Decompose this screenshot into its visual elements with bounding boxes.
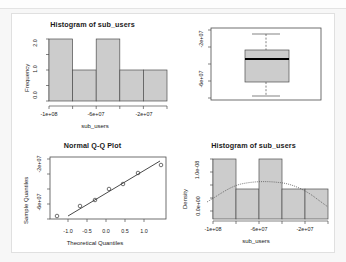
hist-density-xtick-1: -6e+07 <box>251 226 268 232</box>
hist-density-xtick-0: -1e+08 <box>205 226 222 232</box>
hist-frequency-xtick-1: -6e+07 <box>88 111 105 117</box>
boxplot-plot <box>207 26 321 102</box>
hist-frequency-ytick-0: 0.0 <box>32 91 38 99</box>
panel-histogram-density: Histogram of sub_users Density 1.0e-08 0… <box>173 133 334 252</box>
hist-density-xlabel: sub_users <box>181 238 331 244</box>
hist-frequency-ytick-1: 1.0 <box>32 65 38 73</box>
qq-xlabel: Theoretical Quantiles <box>20 240 170 246</box>
hist-density-ylabel: Density <box>182 189 188 209</box>
qq-ytick-0: -2e+07 <box>36 156 42 173</box>
hist-frequency-xtick-0: -1e+08 <box>41 111 58 117</box>
boxplot-ytick-0: -2e+07 <box>198 31 204 48</box>
qq-xtick-4: 1.0 <box>140 228 148 234</box>
hist-frequency-xtick-2: -2e+07 <box>136 111 153 117</box>
panel-boxplot: -2e+07 -6e+07 <box>173 14 334 133</box>
qq-xtick-3: 0.5 <box>121 228 129 234</box>
qq-ylabel: Sample Quantiles <box>23 177 29 224</box>
qq-xtick-2: 0.0 <box>102 228 110 234</box>
hist-density-xtick-2: -2e+07 <box>297 226 314 232</box>
panel-normal-qq: Normal Q-Q Plot Sample Quantiles -2e+07 … <box>12 133 173 252</box>
hist-density-plot <box>205 155 329 225</box>
panel-histogram-frequency: Histogram of sub_users Frequency 2.0 1.0… <box>12 14 173 133</box>
boxplot-ytick-1: -6e+07 <box>198 71 204 88</box>
hist-frequency-plot <box>42 36 167 106</box>
qq-xtick-1: -0.5 <box>82 228 91 234</box>
qq-ytick-1: -6e+07 <box>36 194 42 211</box>
qq-plot <box>44 155 168 225</box>
hist-density-title: Histogram of sub_users <box>173 141 334 150</box>
hist-frequency-xlabel: sub_users <box>20 123 170 129</box>
hist-frequency-ytick-2: 2.0 <box>32 39 38 47</box>
hist-frequency-ylabel: Frequency <box>24 64 30 92</box>
hist-density-ytick-0: 0.0e+00 <box>195 196 201 216</box>
qq-xtick-0: -1.0 <box>63 228 72 234</box>
plot-card: Histogram of sub_users Frequency 2.0 1.0… <box>11 13 335 253</box>
qq-title: Normal Q-Q Plot <box>12 141 173 150</box>
hist-density-ytick-1: 1.0e-08 <box>194 161 200 179</box>
hist-frequency-title: Histogram of sub_users <box>12 20 173 29</box>
window-top-strip <box>0 0 346 9</box>
